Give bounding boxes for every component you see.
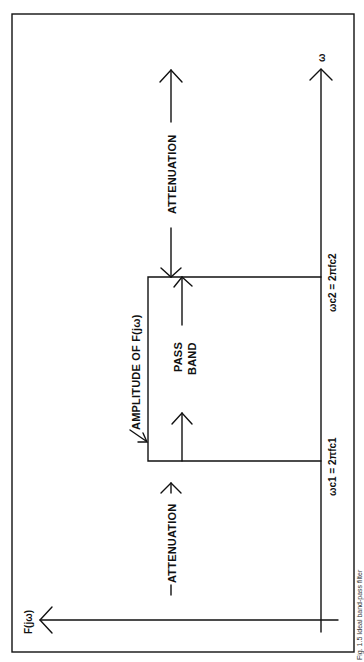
cutoff-upper-label: ωc2 = 2πfc2 bbox=[327, 253, 338, 312]
figure-caption-partial: Fig. 1.5 Ideal band-pass filter bbox=[356, 569, 364, 660]
attenuation-lower-label: ATTENUATION bbox=[166, 504, 178, 583]
pass-band-label-line1: PASS bbox=[172, 342, 184, 372]
cutoff-lower-label: ωc1 = 2πfc1 bbox=[327, 437, 338, 496]
amplitude-label: AMPLITUDE OF F(jω) bbox=[130, 314, 142, 430]
passband-arrowhead-up-icon bbox=[174, 277, 192, 287]
amplitude-axis-label: F(jω) bbox=[23, 610, 34, 634]
amplitude-pointer-arrowhead-icon bbox=[138, 433, 147, 442]
band-pass-filter-diagram: ATTENUATION ATTENUATION PASS BAND AMPLIT… bbox=[0, 0, 364, 662]
attenuation-upper-label: ATTENUATION bbox=[166, 135, 178, 214]
omega-axis-label: ω bbox=[316, 53, 327, 62]
pass-band-label-line2: BAND bbox=[186, 342, 198, 375]
outer-frame bbox=[12, 14, 354, 652]
